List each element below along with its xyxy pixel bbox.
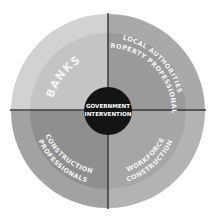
center-line-2: INTERVENTION: [85, 111, 132, 117]
center-hub: GOVERNMENT INTERVENTION: [84, 87, 132, 135]
center-line-1: GOVERNMENT: [86, 103, 130, 109]
government-intervention-diagram: BANKS LOCAL AUTHORITIES PROPERTY PROFESS…: [0, 0, 215, 223]
